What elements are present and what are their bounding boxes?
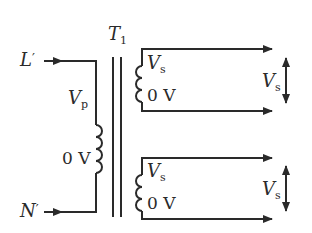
primary-bottom-tap-label: 0 V xyxy=(62,150,91,167)
transformer-diagram: T1 L′ N′ Vp 0 V Vs 0 V Vs Vs 0 V Vs xyxy=(0,0,312,233)
neutral-input-label: N′ xyxy=(20,202,39,220)
secondary2-coil xyxy=(136,175,142,211)
secondary1-top-tap-label: Vs xyxy=(147,54,166,72)
secondary1-coil xyxy=(136,66,142,102)
primary-bottom-wire xyxy=(60,173,96,212)
secondary1-output-voltage-label: Vs xyxy=(262,72,281,90)
secondary2-top-tap-label: Vs xyxy=(147,162,166,180)
primary-top-tap-label: Vp xyxy=(68,89,88,107)
transformer-label: T1 xyxy=(108,25,127,43)
primary-coil xyxy=(96,125,102,173)
secondary2-output-voltage-label: Vs xyxy=(262,180,281,198)
secondary2-bottom-tap-label: 0 V xyxy=(147,195,176,212)
secondary1-bottom-tap-label: 0 V xyxy=(147,87,176,104)
live-input-label: L′ xyxy=(20,51,35,69)
